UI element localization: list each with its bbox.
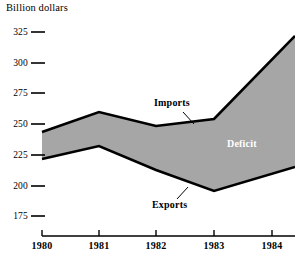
y-tick-label-225: 225: [2, 150, 28, 160]
y-tick-label-200: 200: [2, 181, 28, 191]
y-axis-ticks: [31, 32, 45, 216]
y-tick-label-325: 325: [2, 27, 28, 37]
chart-container: Billion dollars: [0, 0, 295, 259]
chart-plot-area: [0, 0, 295, 259]
deficit-area-label: Deficit: [227, 138, 257, 149]
x-tick-label-1984: 1984: [250, 240, 294, 251]
y-tick-label-250: 250: [2, 119, 28, 129]
x-axis: [42, 230, 295, 236]
x-tick-label-1982: 1982: [134, 240, 178, 251]
y-tick-label-300: 300: [2, 58, 28, 68]
deficit-area: [42, 36, 295, 191]
x-tick-label-1981: 1981: [77, 240, 121, 251]
exports-leader-line: [177, 187, 188, 199]
x-tick-label-1980: 1980: [20, 240, 64, 251]
y-tick-label-275: 275: [2, 88, 28, 98]
exports-series-label: Exports: [152, 199, 187, 210]
y-tick-label-175: 175: [2, 211, 28, 221]
imports-series-label: Imports: [154, 97, 190, 108]
x-axis-ticks: [42, 230, 272, 236]
x-tick-label-1983: 1983: [192, 240, 236, 251]
